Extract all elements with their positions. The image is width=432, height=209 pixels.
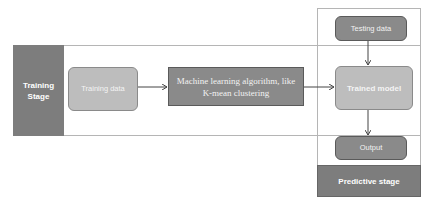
connector-arrows bbox=[0, 0, 432, 209]
